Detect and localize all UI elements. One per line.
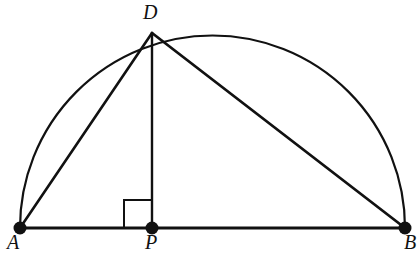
chord-segment-ad [20,33,152,228]
geometry-figure: D A P B [0,0,418,260]
vertex-label-b: B [404,232,416,252]
vertex-label-p: P [145,232,157,252]
chord-segment-db [152,33,405,228]
figure-canvas [0,0,418,260]
vertex-label-d: D [143,2,157,22]
semicircular-arc [20,36,405,229]
vertex-label-a: A [7,232,19,252]
